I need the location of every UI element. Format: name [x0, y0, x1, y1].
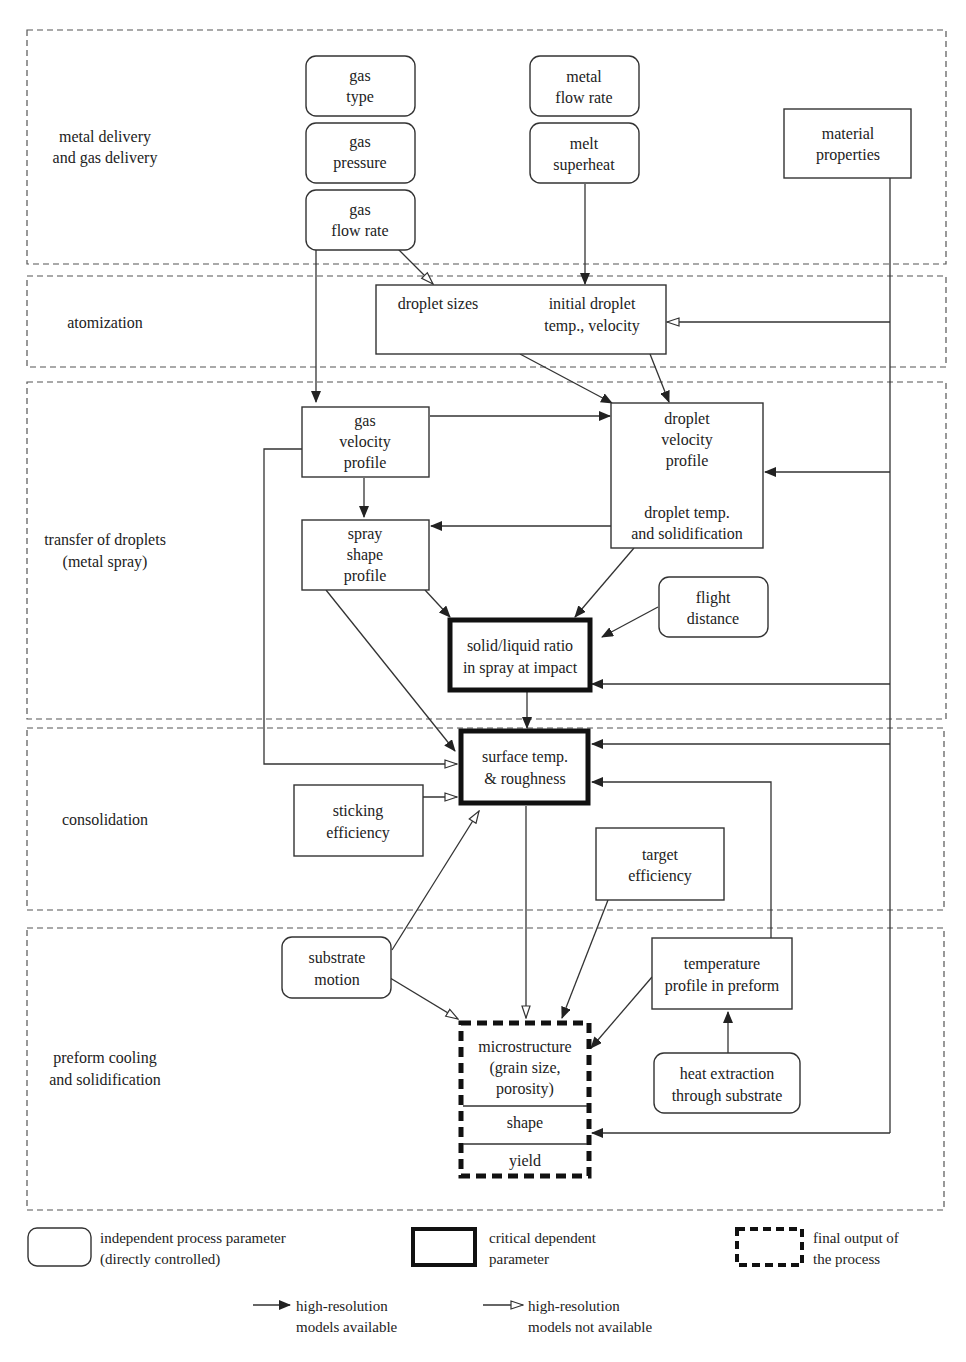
node-label: substrate: [309, 949, 366, 966]
node-flight-distance: flight distance: [659, 577, 768, 637]
node-label: profile: [666, 452, 709, 470]
node-label: distance: [687, 610, 739, 627]
node-label: gas: [349, 201, 370, 219]
zone-label: metal delivery: [59, 128, 151, 146]
node-substrate-motion: substrate motion: [282, 937, 391, 998]
zone-label: transfer of droplets: [44, 531, 166, 549]
legend-label: final output of: [813, 1230, 899, 1246]
node-target-efficiency: target efficiency: [596, 828, 724, 900]
legend-label: independent process parameter: [100, 1230, 286, 1246]
node-label: superheat: [553, 156, 615, 174]
node-label: spray: [348, 525, 383, 543]
node-label: droplet sizes: [398, 295, 478, 313]
node-gas-type: gas type: [306, 56, 415, 116]
node-droplet-profile: droplet velocity profile droplet temp. a…: [611, 403, 763, 548]
node-label: gas: [349, 133, 370, 151]
node-label: shape: [347, 546, 383, 564]
node-label: droplet temp.: [644, 504, 729, 522]
node-label: material: [822, 125, 875, 142]
node-final-output: microstructure (grain size, porosity) sh…: [461, 1023, 589, 1176]
node-label: velocity: [339, 433, 391, 451]
node-melt-superheat: melt superheat: [530, 123, 639, 183]
node-label: profile: [344, 454, 387, 472]
legend-label: parameter: [489, 1251, 549, 1267]
node-label: pressure: [333, 154, 386, 172]
legend-arrow-open: high-resolution models not available: [483, 1298, 652, 1335]
spray-forming-diagram: metal delivery and gas delivery atomizat…: [0, 0, 966, 1362]
node-label: gas: [349, 67, 370, 85]
legend-label: models available: [296, 1319, 398, 1335]
legend: independent process parameter (directly …: [28, 1228, 899, 1335]
node-gas-pressure: gas pressure: [306, 123, 415, 183]
node-label: in spray at impact: [463, 659, 578, 677]
node-label: profile: [344, 567, 387, 585]
node-label: motion: [314, 971, 359, 988]
node-label: (grain size,: [489, 1059, 560, 1077]
node-label: sticking: [333, 802, 384, 820]
node-label: temperature: [684, 955, 760, 973]
legend-label: models not available: [528, 1319, 652, 1335]
node-label: metal: [566, 68, 602, 85]
node-label: properties: [816, 146, 880, 164]
node-label: yield: [509, 1152, 541, 1170]
node-label: microstructure: [478, 1038, 571, 1055]
node-gas-flow-rate: gas flow rate: [306, 190, 415, 250]
node-label: type: [346, 88, 374, 106]
rounded-box-icon: [28, 1228, 91, 1266]
node-label: temp., velocity: [544, 317, 640, 335]
zone-label: preform cooling: [53, 1049, 157, 1067]
legend-label: (directly controlled): [100, 1251, 220, 1268]
legend-arrow-filled: high-resolution models available: [253, 1298, 398, 1335]
node-gas-velocity-profile: gas velocity profile: [302, 407, 429, 477]
node-temperature-profile: temperature profile in preform: [652, 938, 792, 1009]
node-label: flight: [696, 589, 731, 607]
thick-box-icon: [413, 1229, 475, 1265]
node-label: melt: [570, 135, 599, 152]
node-spray-shape-profile: spray shape profile: [302, 520, 429, 590]
zone-label: and gas delivery: [53, 149, 158, 167]
node-label: heat extraction: [680, 1065, 775, 1082]
legend-label: high-resolution: [528, 1298, 620, 1314]
node-metal-flow-rate: metal flow rate: [530, 56, 639, 116]
node-label: gas: [354, 412, 375, 430]
node-label: solid/liquid ratio: [467, 637, 573, 655]
node-label: droplet: [664, 410, 710, 428]
node-label: and solidification: [631, 525, 743, 542]
node-material-properties: material properties: [784, 109, 911, 178]
node-label: shape: [507, 1114, 543, 1132]
node-label: efficiency: [326, 824, 390, 842]
legend-label: high-resolution: [296, 1298, 388, 1314]
node-label: porosity): [496, 1080, 554, 1098]
node-heat-extraction: heat extraction through substrate: [654, 1053, 800, 1113]
legend-label: the process: [813, 1251, 880, 1267]
node-label: efficiency: [628, 867, 692, 885]
zone-label: and solidification: [49, 1071, 161, 1088]
node-label: initial droplet: [549, 295, 636, 313]
legend-label: critical dependent: [489, 1230, 597, 1246]
node-atomization: droplet sizes initial droplet temp., vel…: [376, 285, 666, 354]
node-surface-temp: surface temp. & roughness: [461, 731, 588, 803]
node-label: target: [642, 846, 679, 864]
dashed-box-icon: [737, 1229, 802, 1265]
node-sticking-efficiency: sticking efficiency: [294, 785, 423, 856]
node-label: velocity: [661, 431, 713, 449]
node-label: flow rate: [555, 89, 612, 106]
zone-label: atomization: [67, 314, 143, 331]
node-label: flow rate: [331, 222, 388, 239]
legend-final: final output of the process: [737, 1229, 899, 1267]
zone-label: (metal spray): [63, 553, 148, 571]
node-label: surface temp.: [482, 748, 568, 766]
legend-independent: independent process parameter (directly …: [28, 1228, 286, 1268]
node-solid-liquid-ratio: solid/liquid ratio in spray at impact: [450, 620, 590, 690]
node-label: & roughness: [484, 770, 565, 788]
legend-critical: critical dependent parameter: [413, 1229, 597, 1267]
node-label: through substrate: [672, 1087, 783, 1105]
zone-label: consolidation: [62, 811, 148, 828]
node-label: profile in preform: [665, 977, 780, 995]
